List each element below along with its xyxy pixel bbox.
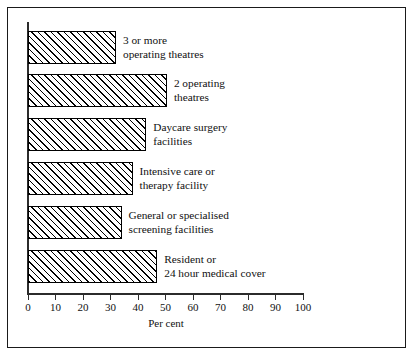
x-tick-label: 100 <box>288 301 318 314</box>
x-tick <box>193 294 194 300</box>
bar-label-line1: Resident or <box>164 253 265 267</box>
x-tick <box>220 294 221 300</box>
bar-label-line2: screening facilities <box>129 223 229 237</box>
x-tick-label: 20 <box>68 301 98 314</box>
bar-label-line1: 3 or more <box>123 34 204 48</box>
bar-label: 2 operating theatres <box>174 74 225 107</box>
bar-intensive-care-or-therapy-facility <box>28 162 133 195</box>
bar-label: Daycare surgery facilities <box>153 118 227 151</box>
bar-label-line1: General or specialised <box>129 209 229 223</box>
x-tick <box>275 294 276 300</box>
bar-label-line2: theatres <box>174 91 225 105</box>
x-tick-label: 50 <box>151 301 181 314</box>
bar-label: 3 or more operating theatres <box>123 31 204 64</box>
x-tick-label: 10 <box>41 301 71 314</box>
bar-label-line1: Daycare surgery <box>153 121 227 135</box>
x-tick <box>248 294 249 300</box>
bar-label-line1: 2 operating <box>174 77 225 91</box>
bar-label-line2: facilities <box>153 135 227 149</box>
x-tick-label: 90 <box>261 301 291 314</box>
x-tick <box>83 294 84 300</box>
x-tick-label: 60 <box>178 301 208 314</box>
x-tick <box>165 294 166 300</box>
x-tick-label: 30 <box>96 301 126 314</box>
x-tick-label: 70 <box>206 301 236 314</box>
bar-resident-or-24-hour-medical-cover <box>28 250 157 283</box>
bar-general-or-specialised-screening-facilities <box>28 206 122 239</box>
x-tick <box>55 294 56 300</box>
bar-daycare-surgery-facilities <box>28 118 146 151</box>
bar-label-line1: Intensive care or <box>140 165 215 179</box>
bar-2-operating-theatres <box>28 74 167 107</box>
bar-label-line2: 24 hour medical cover <box>164 267 265 281</box>
x-tick <box>110 294 111 300</box>
bar-label-line2: therapy facility <box>140 179 215 193</box>
x-tick-label: 0 <box>13 301 43 314</box>
bar-label: Intensive care or therapy facility <box>140 162 215 195</box>
bar-label: General or specialised screening facilit… <box>129 206 229 239</box>
x-tick-label: 80 <box>233 301 263 314</box>
bar-label: Resident or 24 hour medical cover <box>164 250 265 283</box>
x-axis-title: Per cent <box>0 317 332 329</box>
bar-label-line2: operating theatres <box>123 48 204 62</box>
x-tick <box>28 294 29 300</box>
x-tick <box>138 294 139 300</box>
x-tick <box>303 294 304 300</box>
x-tick-label: 40 <box>123 301 153 314</box>
bar-3-or-more-operating-theatres <box>28 31 116 64</box>
plot-area: 3 or more operating theatres 2 operating… <box>0 0 415 357</box>
chart-figure: 3 or more operating theatres 2 operating… <box>0 0 415 357</box>
